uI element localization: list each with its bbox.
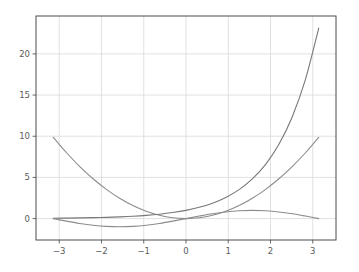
x-axis-tick-label: −3	[53, 247, 66, 256]
y-axis-tick-label: 0	[0, 214, 30, 223]
y-axis-tick-label: 10	[0, 132, 30, 141]
x-axis-tick-label: −1	[137, 247, 150, 256]
x-axis-tick-label: 3	[310, 247, 315, 256]
y-axis-tick-label: 20	[0, 50, 30, 59]
chart-canvas	[0, 0, 359, 272]
x-axis-tick-label: 1	[226, 247, 231, 256]
x-axis-tick-label: 2	[268, 247, 273, 256]
y-axis-tick-label: 5	[0, 173, 30, 182]
y-axis-tick-label: 15	[0, 91, 30, 100]
x-axis-tick-label: −2	[95, 247, 108, 256]
x-axis-tick-label: 0	[183, 247, 188, 256]
figure-container: −3−2−1012305101520	[0, 0, 359, 272]
